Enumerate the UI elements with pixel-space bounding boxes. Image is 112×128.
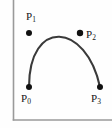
point-label-p3: P3: [91, 93, 101, 105]
point-label-p1: P1: [26, 11, 36, 23]
point-p0: [26, 84, 32, 90]
bezier-curve-figure: P0 P1 P2 P3: [0, 0, 112, 128]
point-label-p2: P2: [86, 29, 96, 41]
point-label-p0-subscript: 0: [27, 97, 31, 106]
point-label-p3-subscript: 3: [97, 97, 101, 106]
point-p1: [26, 30, 32, 36]
point-p3: [97, 84, 103, 90]
point-label-p0: P0: [21, 93, 31, 105]
plot-canvas: [0, 0, 112, 128]
point-label-p2-subscript: 2: [92, 33, 96, 42]
bezier-curve-path: [29, 37, 100, 87]
point-label-p1-subscript: 1: [32, 15, 36, 24]
point-p2: [77, 30, 83, 36]
